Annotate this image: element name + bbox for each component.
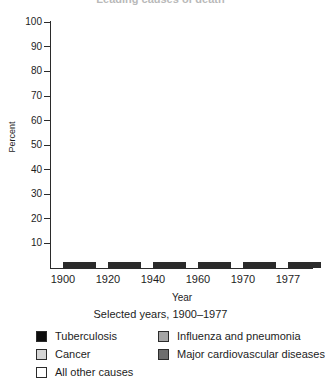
- legend-swatch-icon: [158, 349, 169, 360]
- chart-subtitle: Selected years, 1900–1977: [0, 308, 321, 320]
- x-tick-label-1960: 1960: [175, 273, 221, 285]
- segment-influenza: [244, 266, 275, 267]
- bar-1920[interactable]: [108, 262, 141, 268]
- legend-label: Influenza and pneumonia: [177, 330, 301, 342]
- legend-label: All other causes: [55, 366, 133, 378]
- legend-label: Cancer: [55, 348, 90, 360]
- x-tick-label-1970: 1970: [220, 273, 266, 285]
- y-tick-label-10: 10: [2, 238, 42, 248]
- bar-1940[interactable]: [153, 262, 186, 268]
- legend-entry-cancer[interactable]: Cancer: [36, 348, 158, 360]
- legend-swatch-icon: [36, 367, 47, 378]
- legend-entry-all-other-causes[interactable]: All other causes: [36, 366, 158, 378]
- legend-swatch-icon: [36, 331, 47, 342]
- y-tick-label-70: 70: [2, 91, 42, 101]
- y-tick-label-100: 100: [2, 17, 42, 27]
- x-tick-label-1920: 1920: [85, 273, 131, 285]
- segment-influenza: [199, 266, 230, 267]
- x-axis-title: Year: [51, 292, 313, 303]
- y-axis-tick-labels: 100 90 80 70 60 50 40 30 20 10: [0, 0, 42, 382]
- legend-entry-major-cardiovascular-diseases[interactable]: Major cardiovascular diseases: [158, 348, 316, 360]
- y-tick-label-30: 30: [2, 189, 42, 199]
- x-tick-label-1900: 1900: [40, 273, 86, 285]
- legend-entry-influenza-and-pneumonia[interactable]: Influenza and pneumonia: [158, 330, 316, 342]
- legend-swatch-icon: [158, 331, 169, 342]
- segment-influenza: [289, 266, 320, 267]
- chart-legend: Tuberculosis Influenza and pneumonia Can…: [36, 327, 316, 381]
- bar-1970[interactable]: [243, 262, 276, 268]
- legend-row: Cancer Major cardiovascular diseases: [36, 345, 316, 363]
- bar-1977[interactable]: [288, 262, 321, 268]
- x-tick-label-1977: 1977: [265, 273, 311, 285]
- x-tick-label-1940: 1940: [130, 273, 176, 285]
- segment-influenza: [64, 266, 95, 267]
- legend-row: All other causes: [36, 363, 316, 381]
- y-tick-label-90: 90: [2, 42, 42, 52]
- x-axis-line: [50, 268, 313, 269]
- legend-swatch-icon: [36, 349, 47, 360]
- y-tick-label-20: 20: [2, 214, 42, 224]
- legend-label: Tuberculosis: [55, 330, 117, 342]
- y-axis-title: Percent: [7, 107, 17, 167]
- segment-influenza: [109, 266, 140, 267]
- chart-title: Leading causes of death: [0, 0, 321, 5]
- bar-1960[interactable]: [198, 262, 231, 268]
- legend-entry-tuberculosis[interactable]: Tuberculosis: [36, 330, 158, 342]
- y-tick-label-80: 80: [2, 66, 42, 76]
- segment-influenza: [154, 266, 185, 267]
- legend-row: Tuberculosis Influenza and pneumonia: [36, 327, 316, 345]
- legend-label: Major cardiovascular diseases: [177, 348, 325, 360]
- plot-area: [51, 22, 313, 268]
- bar-1900[interactable]: [63, 262, 96, 268]
